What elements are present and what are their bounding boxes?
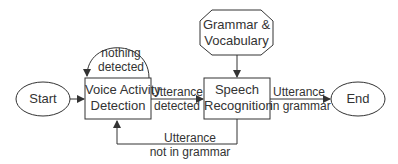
grammar-label-line1: Grammar &: [200, 17, 273, 33]
sr-label-line2: Recognition: [204, 98, 270, 114]
grammar-label-line2: Vocabulary: [200, 33, 273, 49]
utterance-not-in-grammar-label: Utterance not in grammar: [140, 131, 240, 159]
not-in-grammar-label-line2: not in grammar: [140, 145, 240, 159]
loop-label-line1: nothing: [96, 46, 146, 60]
end-node-label: End: [331, 91, 385, 107]
detected-label-line1: Utterance: [150, 85, 204, 99]
in-grammar-label-line2: in grammar: [270, 99, 328, 113]
vad-label-line1: Voice Activity: [85, 82, 151, 98]
not-in-grammar-label-line1: Utterance: [140, 131, 240, 145]
vad-label-line2: Detection: [85, 98, 151, 114]
in-grammar-label-line1: Utterance: [270, 85, 328, 99]
grammar-node-label: Grammar & Vocabulary: [200, 17, 273, 49]
loop-label-line2: detected: [96, 60, 146, 74]
sr-node-label: Speech Recognition: [204, 82, 270, 114]
vad-node-label: Voice Activity Detection: [85, 82, 151, 114]
utterance-in-grammar-label: Utterance in grammar: [270, 85, 328, 113]
nothing-detected-label: nothing detected: [96, 46, 146, 74]
detected-label-line2: detected: [150, 99, 204, 113]
utterance-detected-label: Utterance detected: [150, 85, 204, 113]
sr-label-line1: Speech: [204, 82, 270, 98]
start-node-label: Start: [16, 91, 70, 107]
